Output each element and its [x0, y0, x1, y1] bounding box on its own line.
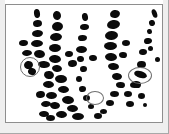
specimen-spot [49, 44, 61, 52]
specimen-spot [79, 86, 86, 92]
specimen-spot [76, 76, 82, 82]
specimen-spot [50, 33, 63, 42]
specimen-field [6, 5, 162, 122]
annotation-ellipse [20, 57, 40, 77]
specimen-spot [49, 55, 62, 64]
specimen-spot [144, 38, 153, 45]
scan-margin [0, 123, 169, 134]
specimen-spot [80, 66, 87, 72]
specimen-spot [52, 10, 62, 20]
specimen-spot [126, 101, 134, 107]
specimen-spot [143, 103, 147, 107]
scan-margin [163, 0, 169, 134]
specimen-spot [94, 113, 102, 119]
specimen-spot [58, 86, 69, 93]
specimen-spot [67, 105, 78, 112]
specimen-spot [155, 57, 160, 62]
figure-root [0, 0, 169, 134]
specimen-spot [105, 31, 119, 41]
specimen-spot [52, 21, 64, 31]
specimen-spot [22, 50, 32, 57]
specimen-spot [43, 81, 54, 88]
annotation-ellipse [128, 67, 152, 84]
specimen-spot [108, 63, 119, 71]
specimen-spot [19, 40, 28, 47]
specimen-spot [148, 19, 155, 26]
specimen-spot [138, 93, 145, 99]
specimen-spot [50, 102, 60, 110]
specimen-spot [89, 55, 97, 62]
specimen-spot [104, 42, 117, 50]
specimen-spot [106, 100, 114, 106]
specimen-spot [124, 91, 132, 97]
specimen-spot [33, 20, 43, 28]
specimen-spot [122, 40, 130, 46]
specimen-spot [52, 64, 63, 72]
specimen-spot [46, 92, 57, 99]
specimen-spot [148, 46, 153, 51]
specimen-spot [46, 115, 55, 121]
specimen-spot [31, 40, 43, 47]
specimen-spot [34, 49, 46, 58]
specimen-spot [116, 82, 125, 88]
specimen-spot [106, 19, 120, 30]
specimen-spot [77, 56, 84, 62]
specimen-spot [72, 113, 84, 120]
specimen-spot [105, 53, 118, 62]
specimen-spot [78, 35, 87, 41]
specimen-spot [76, 46, 87, 53]
specimen-spot [81, 13, 88, 22]
specimen-plate [5, 4, 163, 123]
specimen-spot [110, 91, 119, 97]
specimen-spot [65, 51, 73, 58]
specimen-spot [80, 24, 89, 31]
specimen-spot [119, 52, 127, 58]
annotation-ellipse [86, 91, 104, 105]
specimen-spot [151, 8, 159, 18]
specimen-spot [109, 9, 121, 19]
specimen-spot [100, 109, 107, 114]
specimen-spot [56, 111, 67, 118]
specimen-spot [33, 9, 40, 19]
specimen-spot [43, 70, 54, 80]
specimen-spot [36, 91, 46, 99]
specimen-spot [55, 75, 67, 83]
specimen-spot [68, 60, 78, 68]
specimen-spot [32, 30, 43, 38]
specimen-spot [147, 29, 153, 35]
specimen-spot [62, 96, 75, 105]
specimen-spot [112, 73, 122, 81]
specimen-spot [139, 49, 147, 56]
